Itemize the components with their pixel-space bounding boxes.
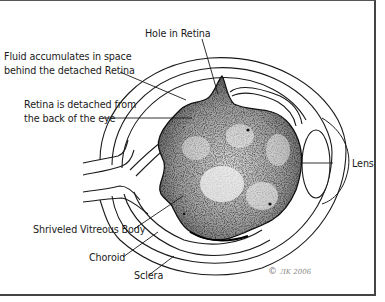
lens	[302, 130, 330, 198]
label-sclera: Sclera	[134, 268, 163, 283]
copyright-text: ЛK 2006	[280, 268, 311, 276]
copyright-icon: ©	[268, 266, 277, 276]
label-fluid-line2: behind the detached Retina	[4, 63, 135, 78]
label-retina-line2: the back of the eye	[24, 111, 115, 126]
label-retina-line1: Retina is detached from	[24, 97, 136, 112]
label-vitreous-body: Shriveled Vitreous Body	[33, 222, 145, 237]
eye-illustration	[0, 0, 385, 302]
label-fluid-line1: Fluid accumulates in space	[4, 49, 132, 64]
copyright-notice: ©ЛK 2006	[268, 266, 311, 276]
label-hole-in-retina: Hole in Retina	[145, 26, 211, 41]
label-choroid: Choroid	[89, 250, 125, 265]
label-lens: Lens	[352, 156, 374, 171]
